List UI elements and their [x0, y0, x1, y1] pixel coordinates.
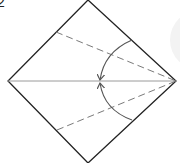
origami-diagram — [0, 0, 180, 163]
background-circle — [170, 10, 180, 70]
